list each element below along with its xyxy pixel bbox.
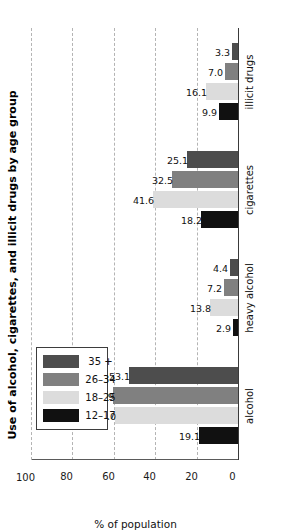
legend[interactable]: 12–1718–2526–3435 + (36, 347, 108, 430)
bar[interactable] (225, 64, 239, 81)
legend-swatch (43, 373, 79, 386)
bar-slot: 32.5 (32, 172, 239, 189)
legend-swatch (43, 409, 79, 422)
y-tick-label: 20 (186, 460, 198, 494)
chart-canvas: Use of alcohol, cigarettes, and illicit … (0, 0, 294, 530)
bar-group: 9.916.17.03.3illicit drugs (32, 28, 239, 136)
bar-slot: 18.2 (32, 212, 239, 229)
bar[interactable] (224, 280, 239, 297)
legend-entry[interactable]: 35 + (43, 355, 118, 368)
bar-slot: 16.1 (32, 84, 239, 101)
legend-swatch (43, 355, 79, 368)
legend-entry[interactable]: 18–25 (43, 391, 118, 404)
category-label: alcohol (244, 352, 255, 460)
y-tick-label: 80 (61, 460, 73, 494)
bar-slot: 7.2 (32, 280, 239, 297)
bar[interactable] (187, 152, 239, 169)
bar-slot: 4.4 (32, 260, 239, 277)
bar-slot: 7.0 (32, 64, 239, 81)
bar-slot: 2.9 (32, 320, 239, 337)
value-axis-line (32, 459, 239, 460)
category-label: heavy alcohol (244, 244, 255, 352)
bar[interactable] (172, 172, 239, 189)
bar-slot: 13.8 (32, 300, 239, 317)
bar[interactable] (210, 300, 239, 317)
bar[interactable] (206, 84, 239, 101)
bar-slot: 41.6 (32, 192, 239, 209)
bar[interactable] (153, 192, 239, 209)
bar-slot: 3.3 (32, 44, 239, 61)
bar[interactable] (201, 212, 239, 229)
bar[interactable] (219, 104, 239, 121)
bar-chart-figure: Use of alcohol, cigarettes, and illicit … (0, 0, 294, 530)
legend-label: 35 + (82, 349, 118, 373)
bar-slot: 19.1 (32, 428, 239, 445)
category-axis-line (238, 28, 239, 460)
bar-slot: 25.1 (32, 152, 239, 169)
legend-entry[interactable]: 12–17 (43, 409, 118, 422)
legend-entry[interactable]: 26–34 (43, 373, 118, 386)
bar-group: 2.913.87.24.4heavy alcohol (32, 244, 239, 352)
bar[interactable] (115, 408, 239, 425)
chart-title: Use of alcohol, cigarettes, and illicit … (0, 0, 26, 530)
bar[interactable] (199, 428, 239, 445)
y-tick-label: 100 (20, 460, 32, 494)
bar[interactable] (113, 388, 239, 405)
bar[interactable] (129, 368, 239, 385)
y-tick-label: 60 (103, 460, 115, 494)
category-label: illicit drugs (244, 28, 255, 136)
bar-group: 18.241.632.525.1cigarettes (32, 136, 239, 244)
y-axis-label: % of population (32, 516, 239, 530)
y-tick-label: 40 (144, 460, 156, 494)
y-tick-label: 0 (227, 460, 239, 494)
bar-slot: 9.9 (32, 104, 239, 121)
legend-swatch (43, 391, 79, 404)
category-label: cigarettes (244, 136, 255, 244)
